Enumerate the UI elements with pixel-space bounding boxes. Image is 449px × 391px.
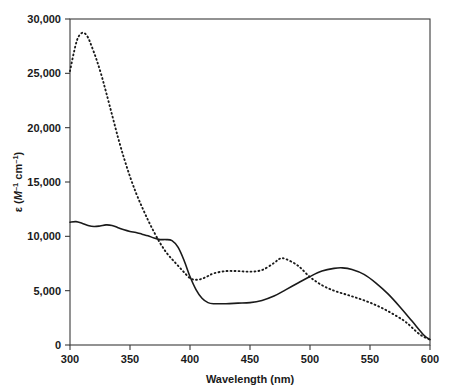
dashed-spectrum-curve [70,33,430,340]
y-tick-label: 25,000 [27,67,61,79]
y-tick-label: 10,000 [27,230,61,242]
x-axis-tick-labels: 300350400450500550600 [61,353,439,365]
plot-frame [70,19,430,345]
x-axis-ticks [70,345,430,350]
x-tick-label: 300 [61,353,79,365]
y-axis-title-close: ) [12,151,24,155]
absorption-spectrum-chart: 300350400450500550600 05,00010,00015,000… [0,0,449,391]
x-axis-title: Wavelength (nm) [206,373,295,385]
y-axis-title: ε (M–1 cm–1) [11,151,24,212]
x-tick-label: 400 [181,353,199,365]
x-tick-label: 500 [301,353,319,365]
x-tick-label: 600 [421,353,439,365]
x-axis-title-name: Wavelength [206,373,268,385]
x-tick-label: 450 [241,353,259,365]
y-tick-label: 30,000 [27,13,61,25]
y-axis-title-cm-exp: –1 [11,155,20,163]
x-tick-label: 550 [361,353,379,365]
y-tick-label: 20,000 [27,122,61,134]
y-tick-label: 15,000 [27,176,61,188]
y-axis-title-molar-exp: –1 [11,183,20,191]
spectrum-figure: 300350400450500550600 05,00010,00015,000… [0,0,449,391]
solid-spectrum-curve [70,222,430,340]
y-axis-title-cm: cm [12,164,24,183]
y-tick-label: 0 [55,339,61,351]
x-tick-label: 350 [121,353,139,365]
y-axis-tick-labels: 05,00010,00015,00020,00025,00030,000 [27,13,61,351]
y-axis-ticks [65,19,70,345]
x-axis-title-unit: (nm) [270,373,294,385]
y-tick-label: 5,000 [33,285,61,297]
